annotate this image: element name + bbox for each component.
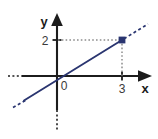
y-axis-label: y [40,14,48,29]
axes-group [8,13,152,131]
origin-label: 0 [61,79,68,93]
y-axis-arrow-icon [51,13,63,26]
y-tick-label-2: 2 [42,34,49,48]
x-axis-label: x [141,81,149,96]
coordinate-plane-svg: y x 2 3 0 [0,0,158,139]
plotted-line-group [13,24,148,108]
line-solid-segment [24,40,122,101]
graph-figure: y x 2 3 0 [0,0,158,139]
line-dashed-extension-upper-right [124,24,148,39]
data-point-marker [119,37,126,44]
x-tick-label-3: 3 [119,82,126,96]
